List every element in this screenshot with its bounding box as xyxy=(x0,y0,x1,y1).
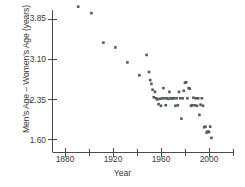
data-point xyxy=(179,97,182,100)
data-point xyxy=(148,71,151,74)
data-point xyxy=(174,105,177,108)
data-point xyxy=(204,125,207,128)
data-point xyxy=(181,97,184,100)
data-point xyxy=(167,98,170,101)
data-point xyxy=(193,104,196,107)
data-point xyxy=(191,104,194,107)
data-point xyxy=(201,97,204,100)
data-point xyxy=(154,91,157,94)
data-point xyxy=(162,87,165,90)
data-point xyxy=(90,12,93,15)
scatter-chart: Men's Age – Women's Age (years) 3.85 3.1… xyxy=(0,0,245,187)
data-point xyxy=(114,46,117,49)
data-point xyxy=(209,125,212,128)
data-point xyxy=(210,137,213,140)
data-point xyxy=(160,105,163,108)
x-axis-line-group xyxy=(53,148,234,157)
data-point xyxy=(77,5,80,8)
data-point xyxy=(126,61,129,64)
data-point xyxy=(173,97,176,100)
data-point xyxy=(151,88,154,91)
data-point xyxy=(163,97,166,100)
data-point xyxy=(161,97,164,100)
data-point xyxy=(195,97,198,100)
data-point xyxy=(183,90,186,93)
data-point xyxy=(197,97,200,100)
y-axis-line-group xyxy=(48,10,57,152)
plot-area xyxy=(0,0,245,187)
data-point xyxy=(177,104,180,107)
data-point xyxy=(192,96,195,99)
data-point xyxy=(168,91,171,94)
data-point xyxy=(145,54,148,57)
data-point xyxy=(208,131,211,134)
data-point xyxy=(153,96,156,99)
data-point xyxy=(102,41,105,44)
data-point xyxy=(157,103,160,106)
data-point xyxy=(159,98,162,101)
data-point xyxy=(185,81,188,84)
data-point xyxy=(175,97,178,100)
data-point xyxy=(149,79,152,82)
data-point xyxy=(199,103,202,106)
data-point xyxy=(178,91,181,94)
data-point xyxy=(165,104,168,107)
data-point xyxy=(138,74,141,77)
data-point xyxy=(180,117,183,120)
data-point xyxy=(189,87,192,90)
data-point xyxy=(186,97,189,100)
data-point xyxy=(196,105,199,108)
data-point-group xyxy=(77,5,213,139)
data-point xyxy=(198,114,201,117)
data-point xyxy=(202,105,205,108)
data-point xyxy=(156,98,159,101)
data-point xyxy=(150,83,153,86)
